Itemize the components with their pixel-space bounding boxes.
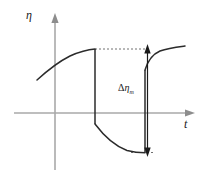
x-axis-arrowhead	[185, 109, 195, 116]
rise-curve-before-step	[37, 49, 95, 80]
delta-eta-annotation-label: Δηm	[118, 83, 134, 95]
plot-canvas	[0, 0, 204, 176]
rise-curve-after-step	[145, 46, 185, 70]
y-axis-arrowhead	[51, 13, 58, 23]
decay-curve-lower-branch	[95, 124, 145, 153]
y-axis-label: η	[26, 9, 32, 21]
efficiency-step-response-figure: η t Δηm	[0, 0, 204, 176]
delta-eta-arrowhead-top	[144, 44, 150, 54]
x-axis-label: t	[184, 118, 187, 130]
delta-eta-subscript: m	[129, 89, 133, 95]
